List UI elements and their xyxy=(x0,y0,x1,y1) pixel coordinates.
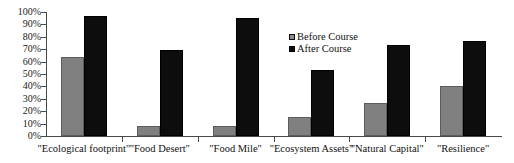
y-axis-tick-mark xyxy=(41,74,46,75)
y-axis-tick-mark xyxy=(41,49,46,50)
x-axis-tick-mark xyxy=(122,137,123,142)
x-axis-category-label: "Ecological footprint" xyxy=(37,143,130,155)
y-axis-tick-label: 80% xyxy=(0,32,41,42)
y-axis-tick-label: 40% xyxy=(0,81,41,91)
bar-before-course xyxy=(61,57,84,136)
x-axis-category-label: "Natural Capital" xyxy=(351,143,424,155)
y-axis-tick-mark xyxy=(41,62,46,63)
y-axis-labels: 100%90%80%70%60%50%40%30%20%10%0% xyxy=(0,0,41,163)
x-axis-tick-mark xyxy=(198,137,199,142)
x-axis-tick-mark xyxy=(274,137,275,142)
y-axis-tick-mark xyxy=(41,86,46,87)
bar-before-course xyxy=(440,86,463,136)
x-axis-labels: "Ecological footprint""Food Desert""Food… xyxy=(46,143,502,163)
bar-after-course xyxy=(311,70,334,136)
bar-after-course xyxy=(236,18,259,136)
y-axis-tick-mark xyxy=(41,124,46,125)
bar-after-course xyxy=(387,45,410,136)
bar-before-course xyxy=(364,103,387,136)
bar-before-course xyxy=(213,126,236,136)
y-axis-tick-label: 50% xyxy=(0,69,41,79)
y-axis-tick-label: 100% xyxy=(0,7,41,17)
bar-after-course xyxy=(160,50,183,136)
x-axis-category-label: "Ecosystem Assets" xyxy=(270,143,354,155)
legend-item: Before Course xyxy=(289,31,358,43)
x-axis-tick-mark xyxy=(425,137,426,142)
y-axis-tick-mark xyxy=(41,111,46,112)
y-axis-tick-mark xyxy=(41,12,46,13)
y-axis-tick-label: 60% xyxy=(0,57,41,67)
y-axis-tick-mark xyxy=(41,37,46,38)
x-axis-tick-mark xyxy=(349,137,350,142)
legend-swatch-icon xyxy=(289,46,295,52)
y-axis-tick-label: 30% xyxy=(0,94,41,104)
y-axis-tick-label: 10% xyxy=(0,119,41,129)
y-axis-tick-label: 0% xyxy=(0,131,41,141)
legend-item-label: Before Course xyxy=(297,31,358,43)
x-axis-category-label: "Food Mile" xyxy=(209,143,262,155)
bar-chart: 100%90%80%70%60%50%40%30%20%10%0% "Ecolo… xyxy=(0,0,514,163)
bar-after-course xyxy=(463,41,486,136)
legend-swatch-icon xyxy=(289,34,295,40)
y-axis-tick-mark xyxy=(41,99,46,100)
x-axis-category-label: "Resilience" xyxy=(437,143,489,155)
y-axis-tick-mark xyxy=(41,136,46,137)
legend-item-label: After Course xyxy=(297,43,352,55)
y-axis-tick-label: 20% xyxy=(0,106,41,116)
bar-before-course xyxy=(288,117,311,136)
bar-before-course xyxy=(137,126,160,136)
x-axis-category-label: "Food Desert" xyxy=(130,143,190,155)
y-axis-tick-mark xyxy=(41,24,46,25)
legend-item: After Course xyxy=(289,43,358,55)
bar-after-course xyxy=(84,16,107,136)
chart-legend: Before CourseAfter Course xyxy=(289,31,358,55)
y-axis-tick-label: 90% xyxy=(0,19,41,29)
plot-area xyxy=(46,12,501,136)
y-axis-tick-label: 70% xyxy=(0,44,41,54)
